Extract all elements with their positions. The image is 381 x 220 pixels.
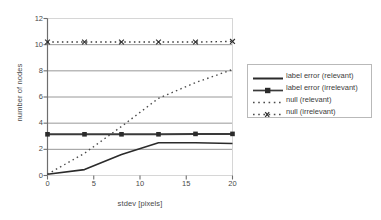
legend-swatch-solid-square-marker-line — [252, 82, 284, 93]
legend-label: null (relevant) — [286, 95, 331, 104]
legend-item-null-relevant: null (relevant) — [248, 93, 371, 105]
chart-legend: label error (relevant) label error (irre… — [247, 64, 372, 118]
legend-swatch-solid-line — [252, 70, 284, 81]
series-line — [48, 143, 233, 174]
series-marker — [119, 132, 124, 137]
gridlines — [48, 45, 233, 176]
series-marker — [156, 132, 161, 137]
series-marker — [82, 132, 87, 137]
series-marker — [193, 132, 198, 137]
legend-swatch-dotted-line — [252, 94, 284, 105]
series-marker — [156, 40, 161, 45]
legend-label: label error (irrelevant) — [286, 83, 358, 92]
legend-item-label-error-irrelevant: label error (irrelevant) — [248, 81, 371, 93]
series-line — [48, 70, 233, 175]
legend-item-null-irrelevant: null (irrelevant) — [248, 105, 371, 117]
series-line — [48, 41, 233, 42]
data-series — [45, 39, 235, 174]
legend-label: null (irrelevant) — [286, 107, 336, 116]
chart-figure: number of nodes stdev [pixels] 024681012… — [0, 0, 381, 220]
legend-label: label error (relevant) — [286, 71, 354, 80]
series-marker — [230, 132, 235, 137]
legend-swatch-dotted-cross-marker-line — [252, 106, 284, 117]
series-marker — [45, 132, 50, 137]
legend-item-label-error-relevant: label error (relevant) — [248, 69, 371, 81]
